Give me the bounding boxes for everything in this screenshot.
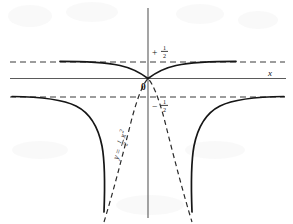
equation-exponent: 2: [117, 128, 125, 133]
paper-texture: [8, 2, 278, 215]
curve-upper-right: [148, 61, 236, 78]
asymptote-positive-numerator: 1: [163, 44, 166, 51]
origin-label: 0: [141, 82, 146, 92]
curve-upper-left: [60, 61, 148, 78]
asymptote-negative-sign: −: [152, 102, 157, 112]
math-figure: + 1 2 − 1 2 0 x y= 1 2 x 2: [0, 0, 293, 224]
asymptote-positive-denominator: 2: [163, 52, 166, 59]
equation-label: y= 1 2 x 2: [109, 128, 132, 162]
equation-equals: =: [112, 147, 123, 156]
svg-text:y=: y=: [110, 147, 123, 162]
asymptote-negative-denominator: 2: [163, 106, 166, 113]
equation-coefficient-denominator: 2: [121, 141, 129, 146]
svg-text:+: +: [152, 48, 157, 58]
label-asymptote-positive: + 1 2: [152, 44, 168, 59]
x-axis-label: x: [267, 68, 272, 78]
asymptote-positive-sign: +: [152, 48, 157, 58]
svg-text:−: −: [152, 102, 157, 112]
asymptote-negative-numerator: 1: [163, 98, 166, 105]
